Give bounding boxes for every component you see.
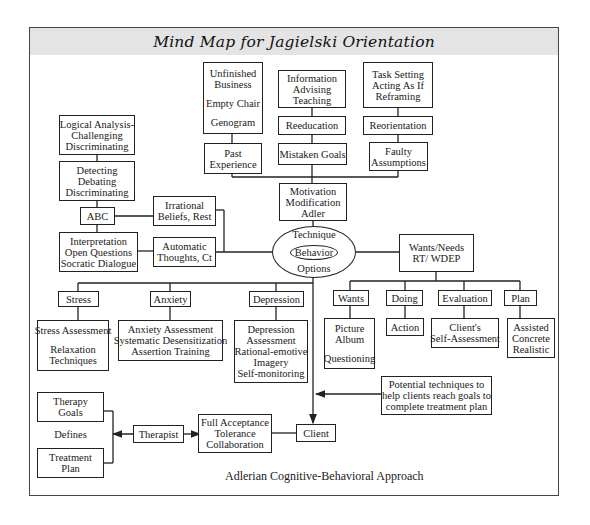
node-text: Advising	[293, 84, 332, 95]
node-text: Treatment	[49, 452, 92, 463]
node-text: Empty Chair	[206, 98, 260, 109]
node-automatic-thoughts: Automatic Thoughts, Ct	[153, 237, 216, 267]
node-text: Plan	[511, 293, 530, 304]
node-text: Adler	[301, 208, 325, 219]
node-text: help clients reach goals to	[382, 390, 491, 401]
node-past-experience: Past Experience	[204, 143, 262, 174]
node-text: Automatic	[162, 241, 206, 252]
node-text: Realistic	[513, 344, 550, 355]
node-text: Challenging	[71, 130, 122, 141]
node-wants: Wants	[333, 290, 369, 306]
node-text: Modification	[286, 197, 341, 208]
node-text: Mistaken Goals	[279, 149, 345, 160]
node-text: Album	[335, 334, 364, 345]
node-text: Acting As If	[372, 80, 424, 91]
node-text: Debating	[78, 176, 117, 187]
node-text: Anxiety	[154, 294, 188, 305]
node-text: Assessment	[246, 335, 296, 346]
node-text: Evaluation	[442, 293, 488, 304]
node-text: Unfinished	[210, 68, 257, 79]
node-treatment-plan: Treatment Plan	[37, 448, 104, 478]
node-text: Techniques	[49, 355, 97, 366]
node-text: Wants/Needs	[409, 242, 464, 253]
node-text: complete treatment plan	[386, 401, 487, 412]
node-potential-techniques: Potential techniques to help clients rea…	[381, 376, 492, 415]
node-wants-needs: Wants/Needs RT/ WDEP	[399, 234, 474, 272]
title-band: Mind Map for Jagielski Orientation	[29, 27, 559, 55]
node-text: Reframing	[376, 91, 421, 102]
node-text: Stress Assessment	[35, 325, 112, 336]
node-anxiety: Anxiety	[150, 291, 191, 307]
defines-label: Defines	[37, 429, 104, 440]
node-task-setting: Task Setting Acting As If Reframing	[363, 62, 433, 108]
node-text: Anxiety Assessment	[128, 324, 213, 335]
node-text: Relaxation	[50, 344, 96, 355]
node-text: Plan	[61, 463, 80, 474]
node-text: ABC	[87, 211, 109, 222]
node-wants-detail: Picture Album Questioning	[324, 318, 375, 369]
node-text: Therapist	[139, 429, 179, 440]
node-text: Depression	[247, 324, 294, 335]
node-text: RT/ WDEP	[413, 253, 461, 264]
node-text: Open Questions	[65, 247, 132, 258]
node-text: Discriminating	[66, 141, 129, 152]
node-interpretation: Interpretation Open Questions Socratic D…	[59, 232, 138, 272]
node-client: Client	[296, 424, 336, 442]
node-reorientation: Reorientation	[363, 116, 433, 135]
node-text: Logical Analysis-	[60, 119, 134, 130]
node-therapist: Therapist	[133, 425, 184, 443]
node-doing: Doing	[386, 290, 423, 306]
node-therapy-goals: Therapy Goals	[37, 392, 104, 422]
node-text: Detecting	[77, 165, 118, 176]
node-text: Action	[391, 322, 420, 333]
node-text: Reorientation	[369, 120, 426, 131]
node-text: Assumptions	[371, 157, 426, 168]
node-text: Goals	[58, 407, 83, 418]
center-behavior-ellipse: Behavior	[290, 245, 338, 260]
node-abc: ABC	[80, 207, 115, 225]
node-text: Discriminating	[66, 187, 129, 198]
node-text: Reeducation	[286, 120, 338, 131]
node-reeducation: Reeducation	[278, 116, 346, 135]
node-text: Full Acceptance	[201, 417, 269, 428]
node-text: Stress	[66, 294, 91, 305]
node-text: Teaching	[293, 95, 331, 106]
node-evaluation: Evaluation	[438, 290, 492, 306]
node-plan-detail: Assisted Concrete Realistic	[507, 318, 555, 358]
node-text: Questioning	[324, 353, 375, 364]
node-text: Past	[224, 148, 242, 159]
diagram-title: Mind Map for Jagielski Orientation	[153, 33, 435, 51]
node-text: Business	[214, 79, 251, 90]
node-full-acceptance: Full Acceptance Tolerance Collaboration	[198, 414, 272, 453]
center-options-label: Options	[287, 263, 341, 274]
node-plan: Plan	[504, 290, 537, 306]
node-text: Self-monitoring	[237, 368, 304, 379]
node-text: Therapy	[53, 396, 88, 407]
node-anxiety-detail: Anxiety Assessment Systematic Desensitiz…	[118, 320, 223, 361]
node-unfinished-business: Unfinished Business Empty Chair Genogram	[203, 62, 263, 134]
node-doing-detail: Action	[386, 318, 424, 336]
node-motivation-modification-adler: Motivation Modification Adler	[279, 183, 347, 221]
node-text: Potential techniques to	[389, 379, 485, 390]
node-text: Experience	[209, 159, 256, 170]
node-text: Picture	[335, 323, 365, 334]
node-text: Imagery	[254, 357, 289, 368]
node-text: Interpretation	[70, 236, 127, 247]
node-text: Motivation	[290, 186, 337, 197]
node-information-advising: Information Advising Teaching	[278, 70, 346, 108]
node-text: Assisted	[513, 322, 549, 333]
node-text: Tolerance	[214, 428, 255, 439]
node-text: Wants	[338, 293, 364, 304]
node-text: Faulty	[385, 146, 412, 157]
node-text: Systematic Desensitization	[114, 335, 227, 346]
node-text: Client's	[449, 322, 481, 333]
node-evaluation-detail: Client's Self-Assessment	[431, 318, 499, 348]
node-text: Beliefs, Rest	[158, 211, 212, 222]
node-text: Depression	[253, 294, 300, 305]
node-text: Doing	[391, 293, 417, 304]
node-text: Self-Assessment	[430, 333, 500, 344]
node-logical-analysis: Logical Analysis- Challenging Discrimina…	[59, 115, 135, 155]
node-text: Collaboration	[206, 439, 264, 450]
node-text: Irrational	[165, 200, 204, 211]
node-text: Genogram	[211, 117, 255, 128]
